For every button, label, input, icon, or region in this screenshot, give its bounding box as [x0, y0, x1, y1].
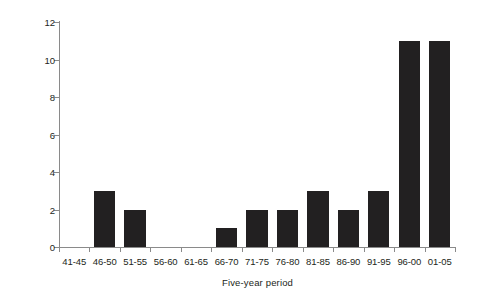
y-tick-label: 0	[50, 242, 55, 253]
x-tick-label: 91-95	[367, 256, 391, 267]
y-tick-label: 4	[50, 167, 55, 178]
x-tick-label: 86-90	[336, 256, 360, 267]
x-tick-label: 41-45	[62, 256, 86, 267]
x-tick-mark	[59, 247, 60, 252]
bar	[368, 191, 389, 247]
bar	[338, 210, 359, 248]
x-tick-mark	[89, 247, 90, 252]
x-tick-label: 76-80	[276, 256, 300, 267]
y-tick-label: 6	[50, 129, 55, 140]
x-tick-mark	[242, 247, 243, 252]
x-tick-mark	[181, 247, 182, 252]
x-tick-mark	[272, 247, 273, 252]
x-tick-mark	[120, 247, 121, 252]
x-tick-label: 61-65	[184, 256, 208, 267]
x-tick-label: 56-60	[154, 256, 178, 267]
bar	[399, 41, 420, 247]
y-tick-label: 2	[50, 204, 55, 215]
bar	[246, 210, 267, 248]
bar-chart-figure: Number of birds 024681012 41-4546-5051-5…	[0, 0, 479, 304]
plot-area: 024681012	[59, 22, 455, 247]
x-tick-mark	[211, 247, 212, 252]
x-tick-label: 71-75	[245, 256, 269, 267]
bar	[429, 41, 450, 247]
x-axis-title: Five-year period	[59, 277, 456, 288]
x-tick-label: 96-00	[397, 256, 421, 267]
x-tick-mark	[394, 247, 395, 252]
x-tick-label: 51-55	[123, 256, 147, 267]
x-tick-label: 46-50	[93, 256, 117, 267]
bar	[277, 210, 298, 248]
x-tick-mark	[364, 247, 365, 252]
x-tick-label: 81-85	[306, 256, 330, 267]
x-axis-line	[59, 247, 456, 248]
x-tick-label: 01-05	[428, 256, 452, 267]
x-tick-mark	[303, 247, 304, 252]
x-tick-mark	[455, 247, 456, 252]
x-tick-mark	[150, 247, 151, 252]
bar	[216, 228, 237, 247]
bar	[94, 191, 115, 247]
x-tick-label: 66-70	[215, 256, 239, 267]
bar	[124, 210, 145, 248]
x-tick-mark	[425, 247, 426, 252]
y-tick-label: 12	[44, 17, 55, 28]
y-axis-title: Number of birds	[9, 0, 37, 248]
x-tick-mark	[333, 247, 334, 252]
y-tick-label: 10	[44, 54, 55, 65]
y-tick-label: 8	[50, 92, 55, 103]
bar	[307, 191, 328, 247]
